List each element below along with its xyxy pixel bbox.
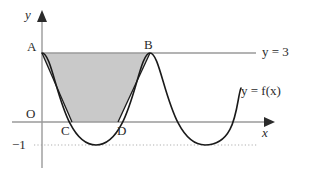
level-line-equation-label: y = 3 xyxy=(262,45,289,58)
point-label-a: A xyxy=(27,40,36,53)
figure-canvas: y x A B C D O −1 y = 3 y = f(x) xyxy=(0,0,310,180)
curve-equation-label: y = f(x) xyxy=(241,84,281,97)
point-label-c: C xyxy=(61,124,70,137)
point-label-b: B xyxy=(144,38,153,51)
x-axis-label: x xyxy=(262,126,268,139)
point-label-d: D xyxy=(117,124,126,137)
point-label-o: O xyxy=(26,107,35,120)
y-tick-minus-one: −1 xyxy=(12,138,26,151)
y-axis-arrowhead xyxy=(37,10,47,22)
y-axis-label: y xyxy=(25,8,31,21)
